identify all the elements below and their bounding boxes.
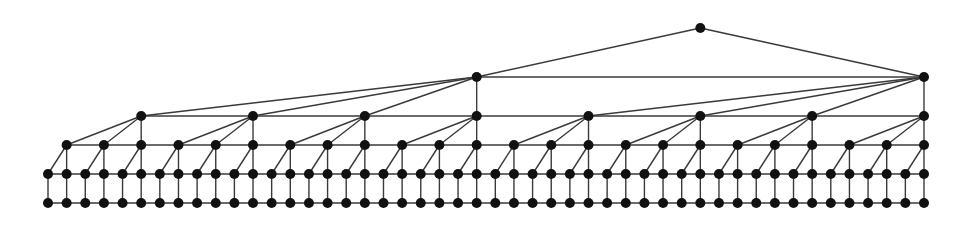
row-5-node	[658, 198, 668, 208]
tree-edge	[570, 145, 589, 174]
row-3-node	[882, 140, 892, 150]
row-3-node	[621, 140, 631, 150]
row-5-node	[80, 198, 90, 208]
row-5-node	[677, 198, 687, 208]
row-5-node	[807, 198, 817, 208]
row-4-node	[919, 169, 929, 179]
row-3-node	[434, 140, 444, 150]
row-4-node	[360, 169, 370, 179]
row-4-node	[155, 169, 165, 179]
row-5-node	[528, 198, 538, 208]
tree-edge	[160, 145, 179, 174]
row-4-node	[472, 169, 482, 179]
tree-edge	[887, 116, 924, 145]
row-3-node	[248, 140, 258, 150]
row-5-node	[267, 198, 277, 208]
row-5-node	[397, 198, 407, 208]
row-5-node	[919, 198, 929, 208]
row-3-node	[323, 140, 333, 150]
row-4-node	[453, 169, 463, 179]
tree-edge	[663, 116, 700, 145]
row-4-node	[900, 169, 910, 179]
row-5-node	[565, 198, 575, 208]
row-3-node	[546, 140, 556, 150]
row-4-node	[118, 169, 128, 179]
tree-edge	[141, 77, 476, 116]
row-5-node	[323, 198, 333, 208]
row-3-node	[733, 140, 743, 150]
row-5-node	[453, 198, 463, 208]
row-5-node	[826, 198, 836, 208]
tree-edge	[589, 77, 924, 116]
tree-edge	[439, 116, 476, 145]
tree-edge	[794, 145, 813, 174]
tree-edge	[104, 116, 141, 145]
tree-edge	[831, 145, 850, 174]
row-4-node	[602, 169, 612, 179]
row-5-node	[155, 198, 165, 208]
row-4-node	[528, 169, 538, 179]
row-3-node	[807, 140, 817, 150]
row-5-node	[863, 198, 873, 208]
tree-edge	[868, 145, 887, 174]
row-4-node	[882, 169, 892, 179]
row-5-node	[99, 198, 109, 208]
tree-edge	[719, 145, 738, 174]
row-5-node	[136, 198, 146, 208]
row-2-node	[248, 111, 258, 121]
row-2-node	[919, 111, 929, 121]
row-1-node	[472, 72, 482, 82]
row-4-node	[714, 169, 724, 179]
row-4-node	[397, 169, 407, 179]
row-5-node	[304, 198, 314, 208]
row-4-node	[323, 169, 333, 179]
tree-edge	[607, 145, 626, 174]
row-4-node	[99, 169, 109, 179]
row-4-node	[565, 169, 575, 179]
row-4-node	[285, 169, 295, 179]
root-node	[695, 23, 705, 33]
row-3-node	[136, 140, 146, 150]
row-4-node	[490, 169, 500, 179]
row-2-node	[136, 111, 146, 121]
row-4-node	[844, 169, 854, 179]
row-4-node	[751, 169, 761, 179]
tree-edge	[234, 145, 253, 174]
tree-edge	[328, 116, 365, 145]
row-3-node	[211, 140, 221, 150]
row-4-node	[416, 169, 426, 179]
tree-edge	[905, 145, 924, 174]
row-5-node	[360, 198, 370, 208]
tree-edge	[197, 145, 216, 174]
tree-edge	[495, 145, 514, 174]
tree-edge	[775, 116, 812, 145]
row-4-node	[378, 169, 388, 179]
row-4-node	[509, 169, 519, 179]
tree-edge	[533, 145, 552, 174]
tree-edge	[309, 145, 328, 174]
row-2-node	[472, 111, 482, 121]
row-4-node	[733, 169, 743, 179]
row-4-node	[695, 169, 705, 179]
row-2-node	[695, 111, 705, 121]
row-5-node	[900, 198, 910, 208]
tree-edge	[700, 77, 924, 116]
row-4-node	[789, 169, 799, 179]
row-5-node	[248, 198, 258, 208]
row-3-node	[99, 140, 109, 150]
row-4-node	[43, 169, 53, 179]
row-5-node	[882, 198, 892, 208]
row-4-node	[639, 169, 649, 179]
row-5-node	[546, 198, 556, 208]
row-4-node	[62, 169, 72, 179]
row-5-node	[733, 198, 743, 208]
row-4-node	[229, 169, 239, 179]
row-4-node	[434, 169, 444, 179]
row-5-node	[43, 198, 53, 208]
tree-edge	[756, 145, 775, 174]
row-3-node	[919, 140, 929, 150]
tree-edge	[551, 116, 588, 145]
row-3-node	[695, 140, 705, 150]
row-3-node	[658, 140, 668, 150]
row-3-node	[397, 140, 407, 150]
